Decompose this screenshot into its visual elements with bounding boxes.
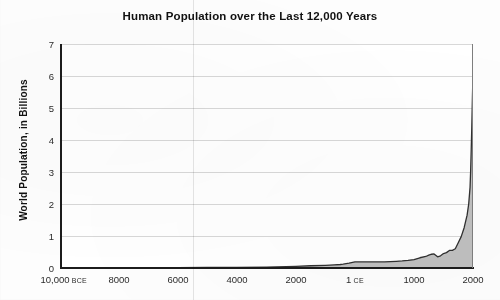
chart-title: Human Population over the Last 12,000 Ye…	[0, 10, 500, 22]
y-axis-tick-2: 2	[30, 199, 54, 210]
x-axis-tick-8000: 8000	[108, 274, 129, 285]
population-area-fill	[60, 72, 473, 268]
x-axis-tick-4000: 4000	[226, 274, 247, 285]
y-axis-tick-1: 1	[30, 231, 54, 242]
x-axis-tick-6000: 6000	[167, 274, 188, 285]
y-axis-tick-7: 7	[30, 39, 54, 50]
x-axis-tick-1: 1 CE	[346, 274, 364, 285]
x-axis-tick-1000: 1000	[403, 274, 424, 285]
plot-right-edge	[472, 44, 473, 268]
x-axis-tick-2000: 2000	[462, 274, 483, 285]
y-axis-tick-5: 5	[30, 103, 54, 114]
x-axis-tick-2000: 2000	[285, 274, 306, 285]
y-axis-tick-0: 0	[30, 263, 54, 274]
y-axis-line	[60, 44, 62, 269]
y-axis-tick-3: 3	[30, 167, 54, 178]
y-axis-label: World Population, in Billions	[18, 55, 29, 245]
population-curve	[60, 44, 473, 268]
y-axis-tick-4: 4	[30, 135, 54, 146]
y-axis-tick-6: 6	[30, 71, 54, 82]
x-axis-tick-10000: 10,000 BCE	[40, 274, 87, 285]
chart-figure: Human Population over the Last 12,000 Ye…	[0, 0, 500, 300]
population-line	[60, 72, 473, 268]
x-axis-line	[60, 267, 474, 269]
plot-area	[60, 44, 473, 268]
